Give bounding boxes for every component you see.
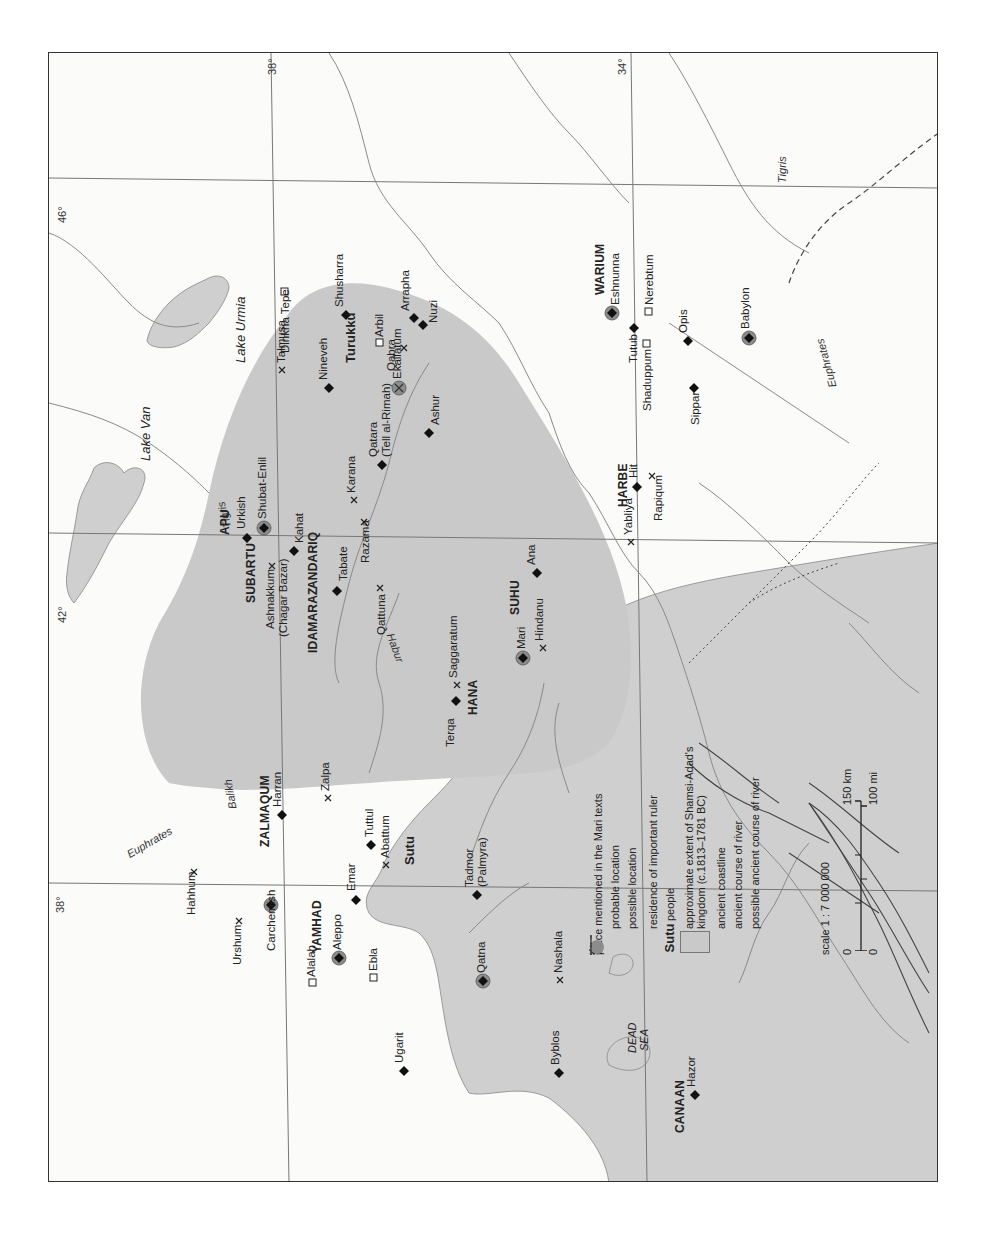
label-ashur: Ashur [429, 395, 441, 425]
label-nuzi: Nuzi [427, 300, 439, 323]
label-arrapha: Arrapha [399, 270, 411, 311]
scale-mi-zero: 0 [867, 949, 879, 955]
label-ana: Ana [525, 545, 537, 565]
legend-possible-river: possible ancient course of river [749, 777, 761, 929]
label-tutub: Tutub [627, 334, 639, 363]
label-hazor: Hazor [685, 1056, 697, 1087]
label-kahat: Kahat [293, 513, 305, 543]
label-yabliya: Yabliya [622, 498, 634, 535]
label-idamaraz: IDAMARAZ [307, 587, 320, 653]
ancient-coastline [789, 133, 938, 283]
scale-km-zero: 0 [841, 949, 853, 955]
label-mari: Mari [515, 627, 527, 649]
label-ashnakkum-2: (Chagar Bazar) [277, 558, 289, 637]
legend-kingdom: approximate extent of Shamsi-Adad's king… [683, 729, 707, 929]
label-saggaratum: Saggaratum [447, 615, 459, 678]
grid-label-46-lon: 46° [57, 206, 69, 223]
scale-ruler [855, 791, 867, 951]
label-razama: Razama [359, 520, 371, 563]
label-tigris-south: Tigris [777, 156, 789, 183]
grid-label-38-lon: 38° [267, 58, 279, 75]
label-abattum: Abattum [379, 815, 391, 858]
map-graphics [49, 53, 938, 1182]
label-urshum: Urshum [231, 925, 243, 965]
label-tadmor-2: (Palmyra) [476, 837, 488, 887]
label-canaan: CANAAN [674, 1080, 687, 1133]
label-andariq: ANDARIQ [307, 532, 320, 589]
label-alalah: Alalah [305, 945, 317, 977]
lake-urmia [147, 276, 229, 348]
label-nineveh: Nineveh [317, 338, 329, 380]
label-qattuna: Qattuna [375, 594, 387, 635]
label-tadmor-1: Tadmor [463, 849, 475, 887]
label-apu: APU [219, 509, 232, 535]
scale-mi-max: 100 mi [867, 772, 879, 805]
label-hana: HANA [467, 680, 480, 715]
label-aleppo: Aleppo [331, 914, 343, 950]
grid-label-42-lon: 42° [57, 606, 69, 623]
map-canvas: 38° 42° 46° 34° 38° Lake Van Lake Urmia … [49, 53, 938, 1182]
label-ugarit: Ugarit [393, 1032, 405, 1063]
label-babylon: Babylon [739, 287, 751, 329]
legend-river: ancient course of river [732, 821, 744, 929]
label-hindanu: Hindanu [533, 598, 545, 641]
label-dinkha-tepe: Dinkha Tepe [279, 289, 291, 353]
label-emar: Emar [345, 864, 357, 891]
scale-bar: scale 1 : 7 000 000 0 150 km 0 100 mi [819, 755, 879, 955]
legend-possible: possible location [626, 848, 638, 929]
label-arbil: Arbil [373, 314, 385, 337]
label-suhu: SUHU [509, 580, 522, 615]
grid-label-38-lat: 38° [55, 896, 67, 913]
label-ashnakkum-1: Ashnakkum [264, 569, 276, 629]
scale-km-max: 150 km [841, 769, 853, 805]
label-zalpa: Zalpa [319, 762, 331, 791]
lake-van [66, 463, 145, 603]
label-qatna: Qatna [475, 942, 487, 973]
label-tuttul: Tuttul [363, 809, 375, 837]
label-eshnunna: Eshnunna [609, 253, 621, 305]
label-carchemish: Carchemish [265, 890, 277, 951]
legend-residence: residence of important ruler [647, 795, 659, 929]
label-hahhum: Hahhum [185, 872, 197, 915]
legend-probable: probable location [609, 845, 621, 929]
label-rapiqum: Rapiqum [652, 475, 664, 521]
label-byblos: Byblos [549, 1030, 561, 1065]
label-shusharra: Shusharra [333, 254, 345, 307]
legend-people-sample: Sutu [662, 921, 677, 955]
label-ebla: Ebla [367, 948, 379, 971]
label-harran: Harran [271, 772, 283, 807]
legend: place mentioned in the Mari texts probab… [589, 665, 763, 955]
legend-people: people [664, 888, 676, 921]
label-hit: Hit [627, 464, 639, 478]
label-opis: Opis [677, 309, 689, 333]
label-dead-sea-2: SEA [639, 1029, 651, 1051]
scale-ratio: scale 1 : 7 000 000 [819, 862, 831, 955]
label-qatara-2: (Tell al-Rimah) [380, 383, 392, 457]
label-warium: WARIUM [594, 244, 607, 295]
label-sippar: Sippar [689, 392, 701, 425]
label-qatara-1: Qatara [367, 422, 379, 457]
kingdom-swatch-icon [680, 929, 710, 955]
label-terqa: Terqa [444, 718, 456, 747]
map-frame: 38° 42° 46° 34° 38° Lake Van Lake Urmia … [48, 52, 938, 1182]
label-turukku: Turukku [344, 313, 358, 363]
label-nashala: Nashala [552, 931, 564, 973]
label-lake-urmia: Lake Urmia [234, 297, 248, 363]
label-lake-van: Lake Van [139, 407, 153, 461]
label-qabra: Qabra [385, 339, 397, 371]
label-zalmaqum: ZALMAQUM [259, 775, 272, 847]
label-karana: Karana [345, 456, 357, 493]
label-nerebtum: Nerebtum [643, 255, 655, 306]
label-shaduppum: Shaduppum [641, 349, 653, 411]
legend-heading: place mentioned in the Mari texts [592, 794, 604, 955]
legend-coastline: ancient coastline [715, 847, 727, 929]
label-subartu: SUBARTU [245, 543, 258, 603]
label-sutu: Sutu [403, 836, 417, 865]
grid-label-34-lat: 34° [617, 58, 629, 75]
label-urkish: Urkish [235, 496, 247, 529]
label-tabate: Tabate [337, 546, 349, 581]
label-shubat-enlil: Shubat-Enlil [256, 457, 268, 519]
label-dead-sea-1: DEAD [627, 1022, 639, 1053]
